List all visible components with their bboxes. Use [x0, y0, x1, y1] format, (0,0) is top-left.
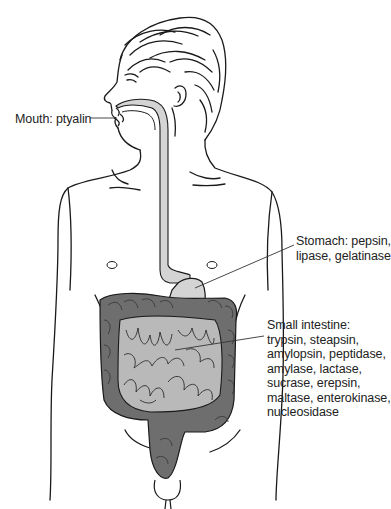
small-intestine-label-heading: Small intestine: — [267, 318, 391, 333]
stomach-label: Stomach: pepsin, lipase, gelatinase — [296, 234, 391, 263]
lower-body-outline — [154, 480, 180, 509]
esophagus — [116, 99, 190, 296]
small-intestine-label: Small intestine: trypsin, steapsin, amyl… — [267, 318, 391, 420]
small-intestine — [118, 316, 222, 412]
stomach-label-line: Stomach: pepsin, — [296, 234, 391, 249]
small-intestine-label-line: amylopsin, peptidase, — [267, 347, 391, 362]
small-intestine-label-line: trypsin, steapsin, — [267, 333, 391, 348]
mouth-label-line: Mouth: ptyalin — [15, 112, 91, 127]
small-intestine-label-line: maltase, enterokinase, — [267, 391, 391, 406]
small-intestine-label-line: nucleosidase — [267, 405, 391, 420]
hair — [120, 17, 226, 140]
stomach-leader-line — [195, 245, 294, 288]
mouth-label: Mouth: ptyalin — [15, 112, 91, 127]
small-intestine-label-line: amylase, lactase, — [267, 362, 391, 377]
small-intestine-label-line: sucrase, erepsin, — [267, 376, 391, 391]
stomach-label-line: lipase, gelatinase — [296, 249, 391, 264]
